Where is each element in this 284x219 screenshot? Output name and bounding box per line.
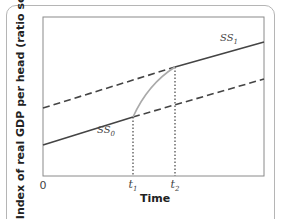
y-axis-label: Index of real GDP per head (ratio scale) <box>14 0 27 219</box>
ss0-label: SS0 <box>97 124 115 138</box>
transition-curve <box>133 67 175 117</box>
ss0-line <box>43 117 133 145</box>
ss1-label: SS1 <box>220 32 238 46</box>
ss0-forward-dashed-line <box>133 79 264 117</box>
ss1-backward-dashed-line <box>43 67 175 108</box>
t1-tick-label: t1 <box>129 178 138 193</box>
x-axis-label: Time <box>140 192 170 205</box>
t2-tick-label: t2 <box>171 178 180 193</box>
origin-label: 0 <box>40 179 47 192</box>
